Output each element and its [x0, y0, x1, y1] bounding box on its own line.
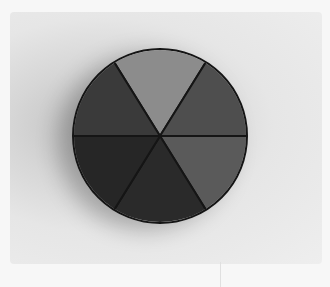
- disc-segments: [74, 50, 246, 222]
- segmented-disc: [72, 48, 248, 224]
- divider-line: [220, 262, 221, 287]
